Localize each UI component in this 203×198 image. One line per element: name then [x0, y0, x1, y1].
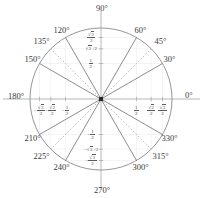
fraction-slash-denominator: /2 — [93, 147, 98, 152]
fraction-denominator: 2 — [158, 111, 166, 116]
angle-210: 210° — [25, 134, 41, 143]
angle-225: 225° — [33, 152, 49, 161]
angle-150: 150° — [25, 55, 41, 64]
ray-135deg[interactable] — [51, 49, 101, 99]
angle-45: 45° — [155, 37, 167, 46]
origin-point — [99, 97, 103, 101]
ray-315deg[interactable] — [101, 99, 151, 149]
tick-pos-sqrt3-2: √32 — [158, 105, 166, 116]
angle-0: 0° — [185, 91, 193, 100]
ray-225deg[interactable] — [51, 99, 101, 149]
ray-45deg[interactable] — [101, 49, 151, 99]
radical-symbol: √3 — [159, 105, 165, 110]
fraction-denominator: 2 — [90, 135, 95, 140]
unit-circle-canvas — [0, 0, 203, 198]
radical-symbol: √3 — [88, 32, 94, 37]
tick-y-sqrt2-2: √2 /2 — [86, 46, 97, 51]
radical-symbol: √3 — [89, 155, 95, 160]
angle-300: 300° — [133, 163, 149, 172]
angle-315: 315° — [153, 152, 169, 161]
unit-circle-figure: 0°90°180°270°30°45°60°120°135°150°210°22… — [0, 0, 203, 198]
fraction-denominator: 2 — [89, 64, 94, 69]
tick-y-neg-sqrt3-2: −√32 — [86, 155, 97, 166]
fraction-denominator: 2 — [134, 111, 139, 116]
fraction-denominator: 2 — [65, 111, 70, 116]
tick-neg-sqrt3-2: −√32 — [34, 105, 45, 116]
angle-135: 135° — [33, 37, 49, 46]
fraction-denominator: 2 — [48, 111, 56, 116]
angle-90: 90° — [96, 4, 108, 13]
angle-270: 270° — [94, 186, 110, 195]
ray-30deg[interactable] — [101, 64, 162, 100]
fraction-denominator: 2 — [88, 161, 96, 166]
angle-30: 30° — [163, 55, 175, 64]
tick-y-one-half: 12 — [89, 58, 94, 69]
ray-300deg[interactable] — [101, 99, 137, 160]
tick-y-neg-sqrt2-2: −√2 /2 — [84, 147, 98, 152]
angle-180: 180° — [8, 92, 24, 101]
tick-pos-one-half: 12 — [134, 105, 139, 116]
tick-y-neg-one-half: −12 — [88, 129, 95, 140]
radical-symbol: √2 — [49, 105, 55, 110]
fraction-denominator: 2 — [147, 111, 155, 116]
angle-240: 240° — [54, 163, 70, 172]
radical-symbol: √2 — [148, 105, 154, 110]
tick-neg-one-half: −12 — [62, 105, 69, 116]
tick-y-sqrt3-2: √32 — [87, 32, 95, 43]
ray-60deg[interactable] — [101, 38, 137, 99]
fraction-denominator: 2 — [87, 38, 95, 43]
angle-60: 60° — [135, 26, 147, 35]
tick-neg-sqrt2-2: −√22 — [45, 105, 56, 116]
fraction-denominator: 2 — [37, 111, 45, 116]
angle-330: 330° — [161, 134, 177, 143]
angle-120: 120° — [54, 26, 70, 35]
tick-pos-sqrt2-2: √22 — [147, 105, 155, 116]
radical-symbol: √3 — [38, 105, 44, 110]
fraction-slash-denominator: /2 — [92, 46, 97, 51]
